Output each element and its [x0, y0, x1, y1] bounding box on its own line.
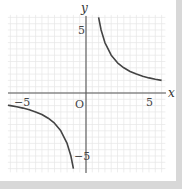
- x-tick-label: 5: [146, 96, 153, 109]
- x-tick-label: −5: [14, 96, 30, 109]
- origin-label: O: [75, 98, 84, 111]
- chart-frame: x y O −555−5: [0, 0, 182, 189]
- hyperbola-chart: x y O −555−5: [0, 0, 182, 189]
- frame-border-bottom: [0, 181, 182, 189]
- x-axis-label: x: [168, 86, 175, 100]
- frame-border-right: [176, 0, 182, 189]
- y-axis-label: y: [80, 1, 88, 15]
- labels: x y O −555−5: [14, 1, 175, 163]
- y-tick-label: 5: [78, 24, 85, 37]
- grid: [8, 15, 166, 173]
- y-tick-label: −5: [74, 150, 90, 163]
